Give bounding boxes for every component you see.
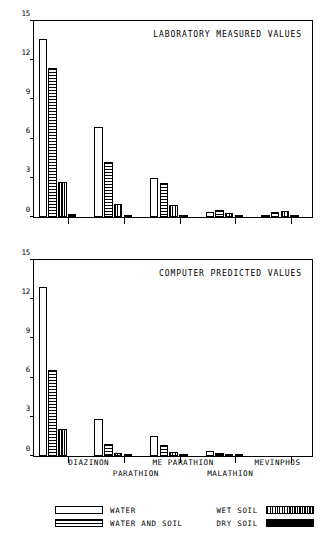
- bar-water-and-soil: [215, 210, 223, 217]
- chart-panel-predicted: COMPUTER PREDICTED VALUES 03691215 DIAZI…: [0, 253, 322, 475]
- x-axis-tick-mark: [124, 217, 125, 224]
- bar-water: [94, 127, 102, 217]
- y-axis-tick-mark: [30, 216, 34, 217]
- y-axis-tick-mark: [30, 138, 34, 139]
- x-axis-category-labels: DIAZINONPARATHIONME PARATHIONMALATHIONME…: [67, 456, 303, 490]
- legend-item: WET SOIL: [192, 505, 314, 516]
- x-axis-label-parathion: PARATHION: [113, 470, 159, 478]
- y-axis-tick-label: 9: [26, 327, 34, 335]
- bar-water-and-soil: [104, 162, 112, 217]
- y-axis-tick-mark: [30, 298, 34, 299]
- bar-water-and-soil: [48, 370, 56, 456]
- bar-wet-soil: [169, 205, 177, 217]
- y-axis-tick-label: 0: [26, 445, 34, 453]
- y-axis-tick-label: 15: [22, 10, 34, 18]
- bar-wet-soil: [114, 204, 122, 217]
- y-axis-tick-label: 6: [26, 366, 34, 374]
- legend-swatch-horizontal-stripes: [55, 519, 103, 527]
- chart-legend: WATERWATER AND SOILWET SOILDRY SOIL: [0, 505, 322, 539]
- bar-water-and-soil: [160, 445, 168, 456]
- plot-frame-bottom: COMPUTER PREDICTED VALUES 03691215 DIAZI…: [33, 259, 313, 457]
- x-axis-label-mevinphos: MEVINPHOS: [254, 459, 300, 467]
- y-axis-tick-mark: [30, 59, 34, 60]
- bar-water: [150, 436, 158, 456]
- x-axis-label-malathion: MALATHION: [207, 470, 253, 478]
- bar-wet-soil: [225, 213, 233, 217]
- legend-swatch-white: [55, 506, 103, 514]
- x-axis-tick-mark: [68, 217, 69, 224]
- plot-frame-top: LABORATORY MEASURED VALUES 03691215: [33, 20, 313, 218]
- x-axis-tick-mark: [180, 217, 181, 224]
- x-axis-tick-mark: [291, 217, 292, 224]
- plot-area-top: 03691215: [34, 21, 312, 217]
- bar-water: [150, 178, 158, 217]
- bar-wet-soil: [58, 429, 66, 456]
- y-axis-tick-mark: [30, 416, 34, 417]
- x-axis-tick-mark: [235, 217, 236, 224]
- legend-label: WET SOIL: [216, 506, 258, 515]
- bar-water: [39, 287, 47, 456]
- chart-panel-laboratory: LABORATORY MEASURED VALUES 03691215: [0, 14, 322, 236]
- y-axis-tick-label: 3: [26, 406, 34, 414]
- bar-water-and-soil: [48, 68, 56, 217]
- y-axis-tick-label: 9: [26, 88, 34, 96]
- legend-item: DRY SOIL: [192, 518, 314, 529]
- plot-area-bottom: 03691215: [34, 260, 312, 456]
- y-axis-tick-label: 12: [22, 288, 34, 296]
- bar-water-and-soil: [271, 212, 279, 217]
- bar-water: [94, 419, 102, 456]
- legend-label: DRY SOIL: [216, 519, 258, 528]
- y-axis-tick-mark: [30, 337, 34, 338]
- y-axis-tick-mark: [30, 20, 34, 21]
- y-axis-tick-mark: [30, 377, 34, 378]
- legend-item: WATER: [55, 505, 185, 516]
- y-axis-tick-mark: [30, 177, 34, 178]
- bar-water: [261, 215, 269, 217]
- y-axis-tick-mark: [30, 455, 34, 456]
- bar-wet-soil: [58, 182, 66, 217]
- y-axis-tick-mark: [30, 259, 34, 260]
- bar-water-and-soil: [160, 183, 168, 217]
- bar-water: [39, 39, 47, 217]
- legend-swatch-vertical-stripes: [266, 506, 314, 514]
- y-axis-tick-label: 12: [22, 49, 34, 57]
- legend-swatch-solid-black: [266, 519, 314, 527]
- x-axis-label-me-parathion: ME PARATHION: [152, 459, 213, 467]
- x-axis-label-diazinon: DIAZINON: [68, 459, 109, 467]
- legend-label: WATER: [110, 506, 136, 515]
- bar-water-and-soil: [104, 444, 112, 456]
- y-axis-tick-label: 3: [26, 167, 34, 175]
- bar-wet-soil: [281, 211, 289, 217]
- y-axis-tick-label: 15: [22, 249, 34, 257]
- y-axis-tick-mark: [30, 98, 34, 99]
- y-axis-tick-label: 6: [26, 127, 34, 135]
- legend-item: WATER AND SOIL: [55, 518, 185, 529]
- legend-label: WATER AND SOIL: [110, 519, 183, 528]
- bar-water: [206, 212, 214, 217]
- y-axis-tick-label: 0: [26, 206, 34, 214]
